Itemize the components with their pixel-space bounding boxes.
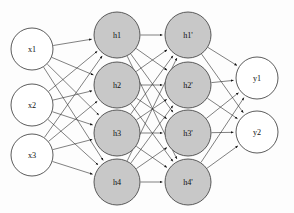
node-h2p[interactable]: h2' <box>165 62 211 108</box>
hidden-layer-1: h1h2h3h4 <box>94 12 140 205</box>
node-h3[interactable]: h3 <box>94 110 140 156</box>
node-circle-h3[interactable] <box>94 110 140 156</box>
edges-group <box>44 35 244 182</box>
node-circle-x2[interactable] <box>11 84 53 126</box>
hidden-layer-2: h1'h2'h3'h4' <box>165 12 211 205</box>
edge-x2-to-h1 <box>49 51 98 91</box>
edge-x3-to-h4 <box>52 162 92 175</box>
edge-h4p-to-y2 <box>207 146 238 168</box>
node-circle-h1p[interactable] <box>165 12 211 58</box>
node-x3[interactable]: x3 <box>11 134 53 176</box>
node-y1[interactable]: y1 <box>236 57 278 99</box>
node-circle-h4p[interactable] <box>165 159 211 205</box>
node-x2[interactable]: x2 <box>11 84 53 126</box>
edge-x2-to-h4 <box>48 119 98 164</box>
edge-h2p-to-y1 <box>211 80 233 82</box>
nodes-group: x1x2x3h1h2h3h4h1'h2'h3'h4'y1y2 <box>11 12 278 205</box>
edge-h1p-to-y1 <box>208 47 237 65</box>
node-circle-x3[interactable] <box>11 134 53 176</box>
node-y2[interactable]: y2 <box>236 111 278 153</box>
edge-x1-to-h1 <box>53 39 92 45</box>
edge-h2-to-h3p <box>136 98 166 119</box>
input-layer: x1x2x3 <box>11 28 53 176</box>
node-h3p[interactable]: h3' <box>165 110 211 156</box>
node-h2[interactable]: h2 <box>94 62 140 108</box>
node-h4[interactable]: h4 <box>94 159 140 205</box>
node-circle-x1[interactable] <box>11 28 53 70</box>
node-circle-h1[interactable] <box>94 12 140 58</box>
edge-h2p-to-y2 <box>207 98 237 118</box>
edge-x2-to-h2 <box>53 91 92 100</box>
node-circle-h4[interactable] <box>94 159 140 205</box>
edge-h2-to-h1p <box>136 50 167 72</box>
edge-h3-to-h2p <box>136 99 166 120</box>
node-h4p[interactable]: h4' <box>165 159 211 205</box>
node-h1[interactable]: h1 <box>94 12 140 58</box>
edge-h4-to-h3p <box>136 148 167 169</box>
node-h1p[interactable]: h1' <box>165 12 211 58</box>
neural-network-diagram: x1x2x3h1h2h3h4h1'h2'h3'h4'y1y2 <box>0 0 294 213</box>
node-circle-h2[interactable] <box>94 62 140 108</box>
edge-x3-to-h1 <box>44 56 102 138</box>
node-circle-h3p[interactable] <box>165 110 211 156</box>
node-circle-h2p[interactable] <box>165 62 211 108</box>
node-x1[interactable]: x1 <box>11 28 53 70</box>
edge-h1-to-h2p <box>136 49 167 71</box>
edge-x3-to-h3 <box>53 139 92 149</box>
output-layer: y1y2 <box>236 57 278 153</box>
node-circle-y1[interactable] <box>236 57 278 99</box>
node-circle-y2[interactable] <box>236 111 278 153</box>
edge-x2-to-h3 <box>52 112 92 125</box>
edge-h3p-to-y1 <box>206 93 238 119</box>
edge-x1-to-h2 <box>52 57 94 75</box>
neural-network-svg: x1x2x3h1h2h3h4h1'h2'h3'h4'y1y2 <box>0 0 294 213</box>
